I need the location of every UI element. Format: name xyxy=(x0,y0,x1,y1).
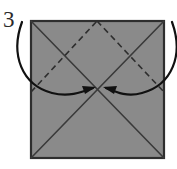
step-number-label: 3 xyxy=(3,7,15,32)
origami-diagram-canvas: 3 xyxy=(0,0,177,169)
origami-figure: 3 xyxy=(0,0,177,169)
